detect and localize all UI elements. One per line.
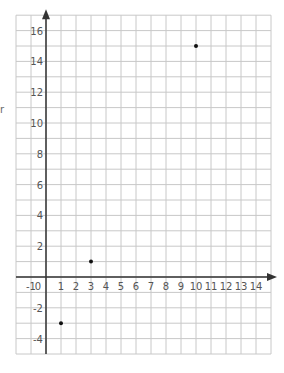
x-tick-label: 12 [220,281,233,292]
y-tick-label: 16 [30,26,43,37]
x-tick-label: 0 [35,281,41,292]
x-tick-label: 6 [133,281,139,292]
y-tick-label: 2 [37,241,43,252]
x-axis-arrow-icon [267,273,277,281]
data-point [59,321,63,325]
y-tick-label: 8 [37,149,43,160]
y-tick-label: 6 [37,180,43,191]
grid-lines [16,15,271,354]
y-tick-label: 12 [30,87,43,98]
x-tick-label: 10 [190,281,203,292]
y-tick-label: -4 [33,334,43,345]
x-tick-label: 11 [205,281,218,292]
x-tick-label: 9 [178,281,184,292]
x-tick-label: 14 [250,281,263,292]
x-tick-label: 7 [148,281,154,292]
data-point [89,260,93,264]
y-tick-label: 10 [30,118,43,129]
x-tick-label: 3 [88,281,94,292]
x-tick-label: 1 [58,281,64,292]
y-axis-arrow-icon [42,9,50,19]
x-tick-label: 8 [163,281,169,292]
x-tick-label: 13 [235,281,248,292]
y-tick-label: 14 [30,56,43,67]
data-point [194,44,198,48]
y-tick-label: -2 [33,303,43,314]
y-tick-label: 4 [37,210,43,221]
coordinate-plane: -101234567891011121314-4-2246810121416 [0,0,284,373]
x-tick-label: 5 [118,281,124,292]
x-tick-label: 2 [73,281,79,292]
x-tick-label: 4 [103,281,109,292]
